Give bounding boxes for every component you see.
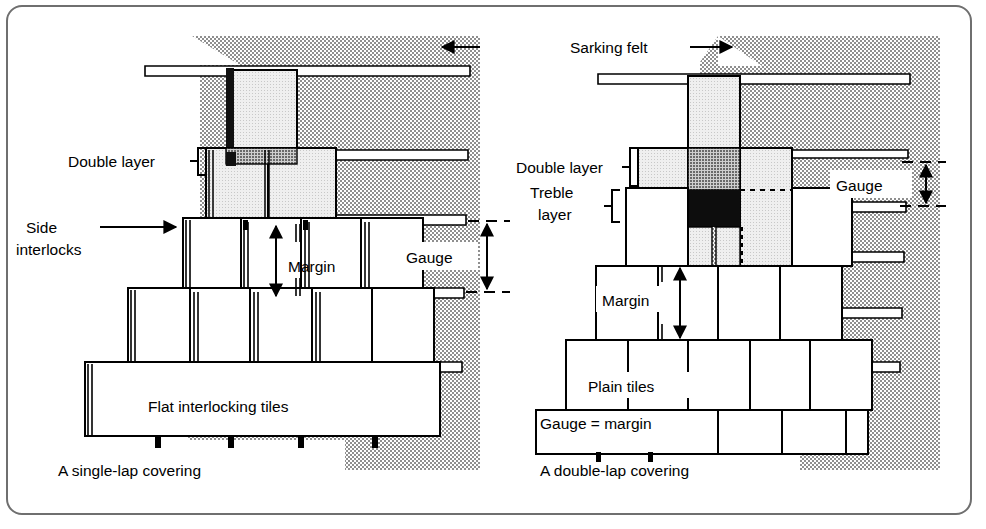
left-side-interlocks-label-2: interlocks <box>16 241 82 258</box>
right-gauge-label: Gauge <box>836 177 883 194</box>
sarking-felt-callout: Sarking felt <box>442 39 732 56</box>
right-double-layer-callout: Double layer <box>516 148 638 186</box>
right-panel-caption: A double-lap covering <box>540 462 689 479</box>
left-tile-course4 <box>128 288 434 362</box>
left-panel-group: Double layer Side interlocks Margin <box>16 36 510 479</box>
right-panel-note: Gauge = margin <box>540 415 652 432</box>
right-double-layer-label: Double layer <box>516 159 603 176</box>
right-panel-group: Double layer Treble layer Margin <box>516 36 946 479</box>
left-panel-caption: A single-lap covering <box>58 462 201 479</box>
right-margin-label: Margin <box>602 292 649 309</box>
right-treble-layer-label-2: layer <box>538 206 572 223</box>
left-gauge-label: Gauge <box>406 249 453 266</box>
left-side-interlocks-label-1: Side <box>26 219 57 236</box>
right-tile-type-label: Plain tiles <box>588 378 655 395</box>
right-treble-layer-label-1: Treble <box>530 184 573 201</box>
right-treble-layer-callout: Treble layer <box>530 184 620 223</box>
left-side-interlocks-callout: Side interlocks <box>16 219 176 258</box>
left-double-layer-label: Double layer <box>68 153 155 170</box>
figure-stage: Double layer Side interlocks Margin <box>0 0 986 529</box>
left-double-layer-callout: Double layer <box>68 148 205 175</box>
right-tile-top <box>688 76 740 148</box>
sarking-felt-label: Sarking felt <box>570 39 648 56</box>
left-tile-type-label: Flat interlocking tiles <box>148 398 289 415</box>
left-tile-top <box>226 68 297 158</box>
left-tile-course2 <box>206 148 336 220</box>
roof-tiling-diagram: Double layer Side interlocks Margin <box>0 0 986 529</box>
left-margin-label: Margin <box>288 258 335 275</box>
